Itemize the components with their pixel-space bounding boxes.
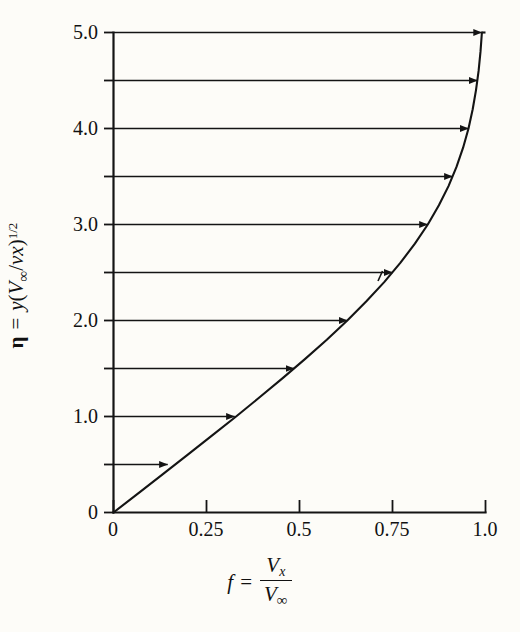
y-tick-label-3.0: 3.0	[46, 214, 98, 234]
y-axis-v-symbol: V	[4, 282, 28, 295]
y-axis-ticks	[104, 33, 114, 513]
y-axis-title: η=y(V∞/νx)1/2	[4, 186, 31, 386]
y-axis-nu: ν	[4, 256, 28, 265]
x-tick-label-0.5: 0.5	[287, 519, 312, 539]
x-tick-label-0: 0	[108, 519, 118, 539]
x-axis-den-subscript: ∞	[277, 593, 288, 609]
y-tick-label-4.0: 4.0	[46, 118, 98, 138]
x-axis-title: f= Vx V∞	[0, 556, 520, 612]
x-axis-fraction-numerator: Vx	[260, 554, 292, 581]
x-axis-fraction-denominator: V∞	[260, 581, 292, 609]
x-axis-symbol-f: f	[227, 570, 233, 594]
x-tick-label-0.25: 0.25	[189, 519, 224, 539]
y-tick-label-5.0: 5.0	[46, 22, 98, 42]
y-tick-label-2.0: 2.0	[46, 310, 98, 330]
y-axis-open-paren: (	[4, 294, 28, 301]
x-axis-num-subscript: x	[279, 564, 285, 579]
x-axis-num-v: V	[266, 553, 279, 577]
x-axis-fraction: Vx V∞	[260, 554, 292, 610]
x-axis-ticks	[114, 500, 486, 513]
x-tick-label-1.0: 1.0	[473, 519, 498, 539]
y-axis-equals: =	[4, 318, 28, 330]
y-axis-close-paren: )	[4, 239, 28, 246]
y-axis-v-subscript: ∞	[15, 271, 31, 282]
y-axis-symbol-eta: η	[4, 337, 28, 349]
y-axis-exponent: 1/2	[5, 223, 20, 240]
y-axis-slash: /	[4, 265, 28, 271]
velocity-arrows	[114, 33, 482, 465]
y-axis-y: y	[4, 301, 28, 310]
y-axis-x: x	[4, 246, 28, 255]
y-tick-label-0: 0	[56, 502, 98, 522]
figure-root: 0 0.25 0.5 0.75 1.0 0 1.0 2.0 3.0 4.0 5.…	[0, 0, 520, 632]
x-axis-equals: =	[240, 570, 252, 594]
y-tick-label-1.0: 1.0	[46, 406, 98, 426]
x-tick-label-0.75: 0.75	[375, 519, 410, 539]
x-axis-den-v: V	[264, 582, 277, 606]
